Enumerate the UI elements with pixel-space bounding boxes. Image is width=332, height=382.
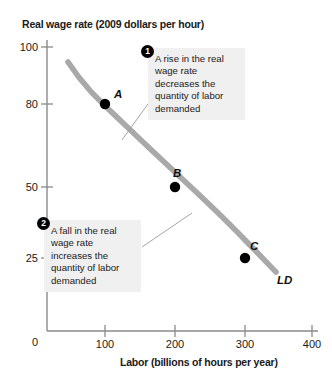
annotation-badge-2: 2 [37, 217, 50, 230]
annotation-callout-2: A fall in the real wage rate increases t… [44, 220, 141, 292]
annotation-callout-1: A rise in the real wage rate decreases t… [148, 48, 245, 120]
data-point-label-a: A [114, 88, 122, 100]
y-tick-label-100: 100 [12, 41, 38, 53]
data-point-label-b: B [173, 167, 181, 179]
y-tick-label-25: 25 [12, 252, 38, 264]
x-tick-label-400: 400 [295, 338, 329, 350]
data-point-a-marker [100, 99, 110, 109]
callout-2-leader-line [142, 213, 192, 247]
x-tick-label-300: 300 [228, 338, 262, 350]
y-tick-label-50: 50 [12, 181, 38, 193]
y-tick-label-80: 80 [12, 98, 38, 110]
annotation-badge-1: 1 [141, 45, 154, 58]
y-tick-label-0: 0 [12, 336, 38, 348]
x-tick-label-200: 200 [158, 338, 192, 350]
labor-demand-chart: Real wage rate (2009 dollars per hour) 1… [0, 0, 332, 382]
data-point-b-marker [170, 182, 180, 192]
x-axis-title: Labor (billions of hours per year) [120, 356, 278, 368]
x-tick-label-100: 100 [88, 338, 122, 350]
data-point-label-c: C [250, 240, 258, 252]
data-point-c-marker [240, 253, 250, 263]
curve-label-ld: LD [277, 274, 292, 286]
